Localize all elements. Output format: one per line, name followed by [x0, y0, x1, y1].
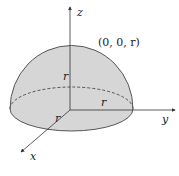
hemisphere-diagram: z y x (0, 0, r) r r r — [0, 0, 179, 176]
x-axis-label: x — [30, 150, 37, 163]
radius-label-diagonal: r — [55, 112, 61, 125]
hemisphere-surface — [10, 45, 133, 131]
z-axis-label: z — [76, 6, 83, 19]
y-axis-label: y — [161, 113, 169, 126]
radius-label-horizontal: r — [101, 96, 107, 109]
radius-label-vertical: r — [63, 70, 69, 83]
point-label: (0, 0, r) — [98, 36, 140, 49]
